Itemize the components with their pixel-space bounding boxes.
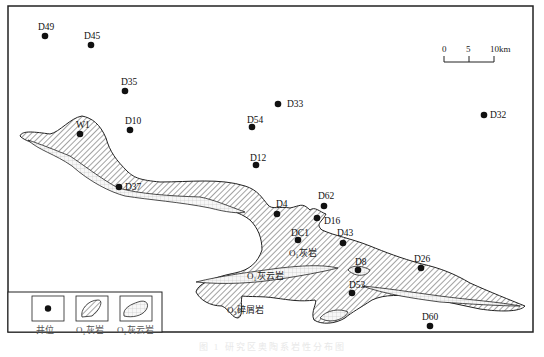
well-d49: D49 <box>38 22 55 39</box>
scale-tick-5: 5 <box>466 44 471 54</box>
scale-tick-10km: 10km <box>490 44 511 54</box>
well-d10: D10 <box>125 116 142 133</box>
scale-bar: 0 5 10km <box>442 44 511 62</box>
formation-label: O₁灰云岩 <box>247 270 284 281</box>
well-label: D32 <box>490 110 507 120</box>
well-dot-icon <box>355 267 362 274</box>
well-d12: D12 <box>250 153 267 168</box>
legend-item-dolomite: O₁灰云岩 <box>117 296 154 335</box>
well-label: W1 <box>76 120 90 130</box>
well-dot-icon <box>349 290 356 297</box>
well-d60: D60 <box>422 312 439 329</box>
well-dot-icon <box>77 131 84 138</box>
well-dot-icon <box>275 101 282 108</box>
well-label: D60 <box>422 312 439 322</box>
well-label: DC1 <box>291 228 309 238</box>
legend-label-limestone: O₁灰岩 <box>76 324 104 335</box>
well-dot-icon <box>427 323 434 330</box>
well-label: D54 <box>247 115 264 125</box>
well-dot-icon <box>116 184 123 191</box>
well-dot-icon <box>340 240 347 247</box>
well-dot-icon <box>274 211 281 218</box>
well-dot-icon <box>314 215 321 222</box>
well-dot-icon <box>42 33 49 40</box>
well-label: D37 <box>125 182 142 192</box>
well-label: D4 <box>276 199 288 209</box>
lithology-map: 0 5 10km D49D45D35D10D33D32D54D12W1D37D4… <box>0 0 544 357</box>
well-dot-icon <box>127 127 134 134</box>
legend-label-dolomite: O₁灰云岩 <box>117 324 154 335</box>
well-dot-icon <box>45 305 51 311</box>
well-d45: D45 <box>84 31 101 48</box>
well-dot-icon <box>481 112 488 119</box>
well-label: D26 <box>414 254 431 264</box>
well-label: D53 <box>349 280 366 290</box>
well-label: D10 <box>125 116 142 126</box>
legend-item-limestone: O₁灰岩 <box>76 296 108 335</box>
well-label: D35 <box>121 77 138 87</box>
well-dot-icon <box>88 42 95 49</box>
scale-tick-0: 0 <box>442 44 447 54</box>
well-dot-icon <box>122 88 129 95</box>
legend: 井位 O₁灰岩 O₁灰云岩 <box>8 292 162 335</box>
well-label: D45 <box>84 31 101 41</box>
well-label: D12 <box>250 153 267 163</box>
well-label: D49 <box>38 22 55 32</box>
well-d35: D35 <box>121 77 138 94</box>
well-label: D8 <box>355 257 367 267</box>
well-label: D43 <box>337 228 354 238</box>
well-label: D62 <box>318 191 335 201</box>
well-d62: D62 <box>318 191 335 209</box>
figure-caption: 图 1 研究区奥陶系岩性分布图 <box>0 340 544 353</box>
legend-label-well: 井位 <box>36 324 54 335</box>
formation-label: O₃碎屑岩 <box>227 304 264 315</box>
well-dot-icon <box>321 203 328 210</box>
well-dot-icon <box>418 265 425 272</box>
well-label: D16 <box>324 216 341 226</box>
well-d33: D33 <box>275 99 304 109</box>
well-d32: D32 <box>481 110 507 120</box>
well-label: D33 <box>287 99 304 109</box>
well-d54: D54 <box>247 115 264 130</box>
formation-label: O₁灰岩 <box>289 247 317 258</box>
